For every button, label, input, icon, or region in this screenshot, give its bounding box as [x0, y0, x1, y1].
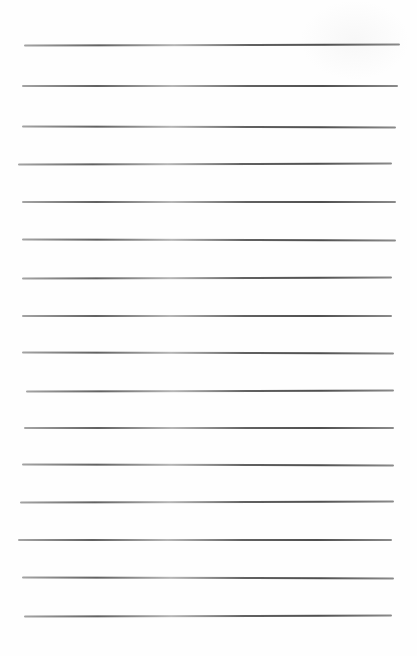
ruled-line [18, 163, 392, 166]
ruled-line [18, 539, 392, 541]
ruled-line [22, 201, 396, 203]
ruled-line [22, 239, 396, 242]
ruled-line [24, 615, 392, 618]
ruled-line [22, 464, 394, 467]
lined-page [0, 0, 417, 656]
ruled-line [22, 85, 398, 87]
bleed-through-mark [300, 0, 410, 80]
ruled-line [24, 427, 394, 429]
ruled-line [26, 390, 394, 393]
ruled-line [22, 126, 396, 129]
ruled-line [22, 352, 394, 355]
ruled-line [22, 277, 392, 280]
ruled-line [22, 315, 392, 317]
ruled-line [22, 577, 394, 580]
ruled-line [20, 501, 394, 504]
